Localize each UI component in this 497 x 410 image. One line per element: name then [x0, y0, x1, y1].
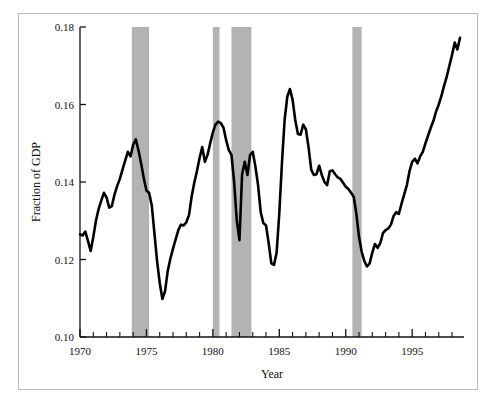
x-tick-label: 1985: [268, 345, 291, 357]
x-tick-label: 1975: [135, 345, 158, 357]
x-axis-title: Year: [261, 367, 283, 381]
recession-band-1: [132, 27, 149, 337]
x-tick-label: 1995: [401, 345, 424, 357]
y-tick-label: 0.18: [55, 21, 75, 33]
recession-band-2: [213, 27, 220, 337]
gdp-fraction-line-chart: 0.100.120.140.160.18 1970197519801985199…: [0, 0, 497, 410]
y-tick-label: 0.16: [55, 99, 75, 111]
y-tick-label: 0.12: [55, 254, 74, 266]
y-axis-title: Fraction of GDP: [29, 142, 43, 222]
figure-container: 0.100.120.140.160.18 1970197519801985199…: [0, 0, 497, 410]
x-tick-label-group: 197019751980198519901995: [69, 345, 424, 357]
x-tick-label: 1990: [335, 345, 358, 357]
y-tick-label-group: 0.100.120.140.160.18: [55, 21, 75, 343]
x-tick-label: 1980: [202, 345, 225, 357]
y-tick-label: 0.10: [55, 331, 75, 343]
recession-band-4: [352, 27, 361, 337]
x-tick-label: 1970: [69, 345, 92, 357]
y-tick-group: [80, 27, 86, 337]
y-tick-label: 0.14: [55, 176, 75, 188]
